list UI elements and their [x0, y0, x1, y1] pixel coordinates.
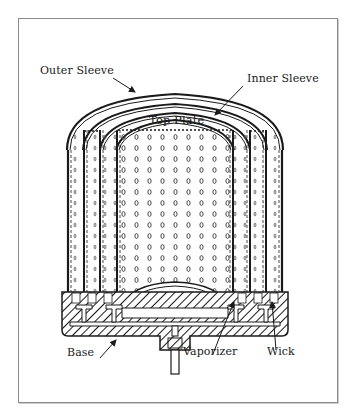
label-vaporizer: Vaporizer [183, 345, 237, 358]
label-base: Base [67, 346, 94, 359]
label-wick: Wick [267, 345, 295, 358]
label-top-plate: Top Plate [149, 113, 204, 127]
perforated-walls [70, 132, 280, 292]
base [62, 292, 288, 374]
burner-diagram [0, 0, 354, 420]
label-outer-sleeve: Outer Sleeve [40, 64, 114, 77]
label-inner-sleeve: Inner Sleeve [247, 72, 319, 85]
